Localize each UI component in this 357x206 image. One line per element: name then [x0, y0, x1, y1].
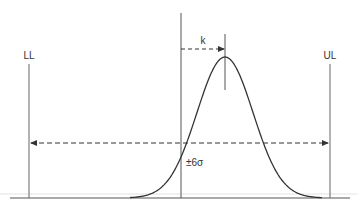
shift-k-label: k — [201, 35, 207, 46]
lower-limit-label: LL — [23, 50, 35, 61]
normal-distribution-curve — [130, 57, 322, 198]
spread-6sigma-label: ±6σ — [186, 157, 204, 168]
diagram-canvas: LL UL k ±6σ — [0, 0, 357, 206]
upper-limit-label: UL — [324, 50, 337, 61]
capability-diagram: LL UL k ±6σ — [0, 0, 357, 206]
